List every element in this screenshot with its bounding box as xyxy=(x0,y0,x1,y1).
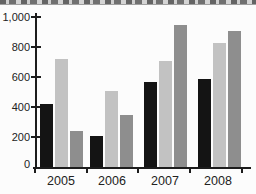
x-tick-label: 2005 xyxy=(39,174,83,188)
bar-2005-black-series xyxy=(40,104,53,167)
bar-2005-light-gray-series xyxy=(55,59,68,167)
y-tick-label: 1,000 xyxy=(0,11,30,23)
y-tick-label: 800 xyxy=(0,41,30,53)
x-axis xyxy=(33,167,251,169)
x-tick xyxy=(241,167,243,173)
x-tick xyxy=(34,167,36,173)
x-tick-label: 2006 xyxy=(90,174,134,188)
x-tick-label: 2008 xyxy=(196,174,240,188)
bar-2005-medium-gray-series xyxy=(70,131,83,167)
y-axis xyxy=(35,13,37,168)
bar-2007-light-gray-series xyxy=(159,61,172,168)
x-tick xyxy=(86,167,88,173)
grouped-bar-chart: 02004006008001,000 2005200620072008 xyxy=(0,0,256,194)
bar-2008-light-gray-series xyxy=(213,43,226,168)
y-tick xyxy=(31,16,41,18)
bar-2007-medium-gray-series xyxy=(174,25,187,168)
bar-2007-black-series xyxy=(144,82,157,168)
bar-2008-medium-gray-series xyxy=(228,31,241,168)
y-tick xyxy=(31,46,41,48)
x-tick xyxy=(137,167,139,173)
bar-2008-black-series xyxy=(198,79,211,168)
y-tick-label: 400 xyxy=(0,101,30,113)
bar-2006-medium-gray-series xyxy=(120,115,133,168)
bar-2006-light-gray-series xyxy=(105,91,118,168)
x-tick xyxy=(189,167,191,173)
x-tick-label: 2007 xyxy=(143,174,187,188)
y-tick xyxy=(31,76,41,78)
y-tick-label: 600 xyxy=(0,71,30,83)
screenshot-root: 02004006008001,000 2005200620072008 xyxy=(0,0,256,194)
y-tick-label: 200 xyxy=(0,131,30,143)
bar-2006-black-series xyxy=(90,136,103,168)
y-tick-label: 0 xyxy=(0,158,30,170)
